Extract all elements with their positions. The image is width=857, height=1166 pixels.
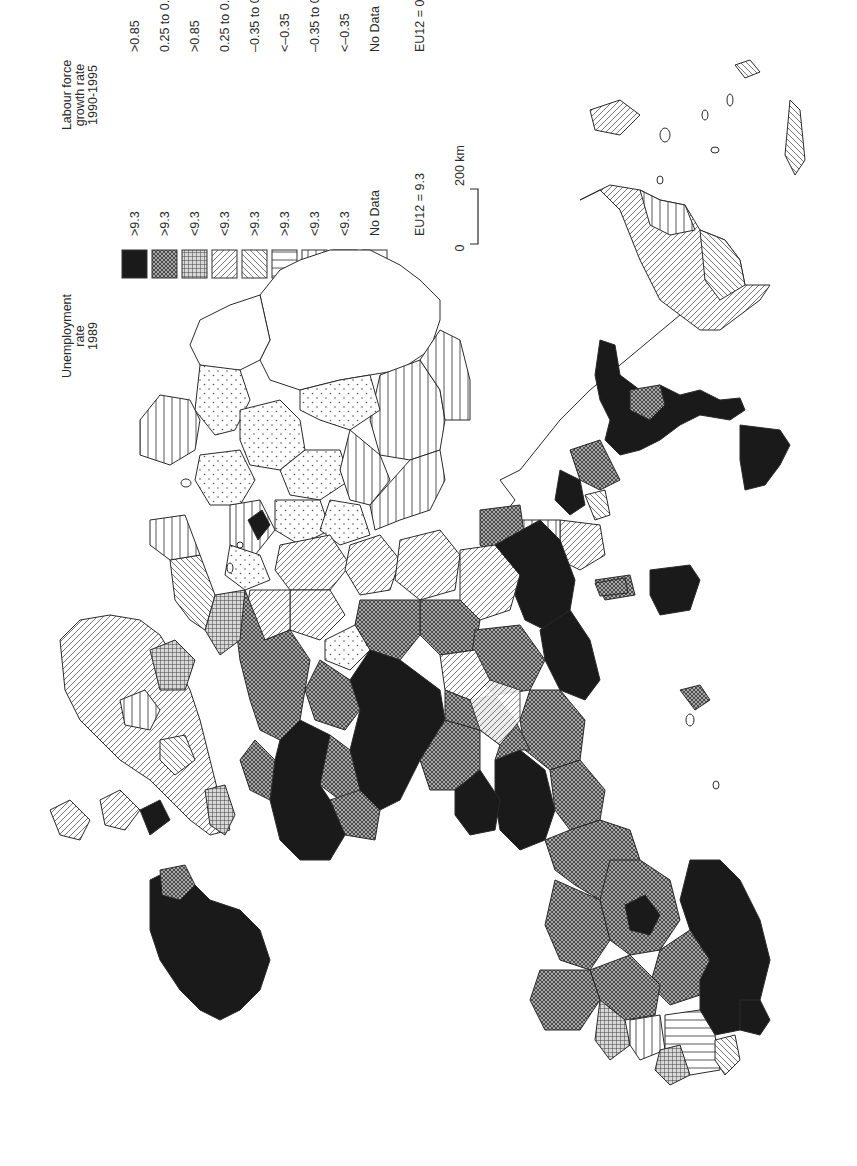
legend-unemp-3: <9.3 bbox=[218, 211, 232, 236]
scale-bar-start: 0 bbox=[453, 244, 467, 251]
legend-unemp-7: <9.3 bbox=[338, 211, 352, 236]
legend-unemployment-values: >9.3 >9.3 <9.3 <9.3 >9.3 >9.3 <9.3 <9.3 … bbox=[128, 173, 427, 236]
legend-unemp-6: <9.3 bbox=[308, 211, 322, 236]
legend-labour-1: 0.25 to 0.85 bbox=[158, 0, 172, 52]
legend-header-labour-3: 1990-1995 bbox=[86, 65, 100, 125]
legend-labour-4: –0.35 to 0.25 bbox=[248, 0, 262, 52]
legend-unemp-0: >9.3 bbox=[128, 211, 142, 236]
scale-bar: 0 200 km bbox=[453, 145, 478, 251]
legend-header-unemployment-2: rate bbox=[73, 325, 87, 347]
swatch-diagonal-forward bbox=[212, 250, 237, 278]
swatch-solid-black bbox=[122, 250, 147, 278]
legend-unemp-4: >9.3 bbox=[248, 211, 262, 236]
legend-labour-2: >0.85 bbox=[188, 20, 202, 52]
legend-labour-7: <–0.35 bbox=[338, 13, 352, 52]
legend-labour-values: >0.85 0.25 to 0.85 >0.85 0.25 to 0.85 –0… bbox=[128, 0, 427, 52]
legend-labour-3: 0.25 to 0.85 bbox=[218, 0, 232, 52]
legend-header-labour-1: Labour force bbox=[60, 60, 74, 130]
swatch-diagonal-back bbox=[242, 250, 267, 278]
scale-bar-end: 200 km bbox=[453, 145, 467, 186]
legend-eu12-labour: EU12 = 0.25 bbox=[413, 0, 427, 52]
legend-eu12-unemployment: EU12 = 9.3 bbox=[413, 173, 427, 236]
swatch-fine-crosshatch bbox=[152, 250, 177, 278]
legend-header-unemployment-3: 1989 bbox=[86, 322, 100, 350]
swatch-grid bbox=[182, 250, 207, 278]
legend-header-unemployment-1: Unemployment bbox=[60, 293, 74, 378]
map-region-ireland bbox=[150, 865, 270, 1020]
map-region-top-right bbox=[580, 60, 805, 330]
legend-unemp-2: <9.3 bbox=[188, 211, 202, 236]
legend-unemp-5: >9.3 bbox=[278, 211, 292, 236]
choropleth-map-figure: Unemployment rate 1989 Labour force grow… bbox=[0, 0, 857, 1166]
map-region-top-left bbox=[50, 615, 235, 840]
map-region-iberia bbox=[530, 820, 770, 1085]
legend-header-labour-2: growth rate bbox=[73, 64, 87, 127]
legend-unemp-8: No Data bbox=[368, 190, 382, 236]
legend-labour-8: No Data bbox=[368, 6, 382, 52]
legend-labour-6: –0.35 to 0.25 bbox=[308, 0, 322, 52]
legend-labour-0: >0.85 bbox=[128, 20, 142, 52]
legend-unemp-1: >9.3 bbox=[158, 211, 172, 236]
legend-labour-5: <–0.35 bbox=[278, 13, 292, 52]
